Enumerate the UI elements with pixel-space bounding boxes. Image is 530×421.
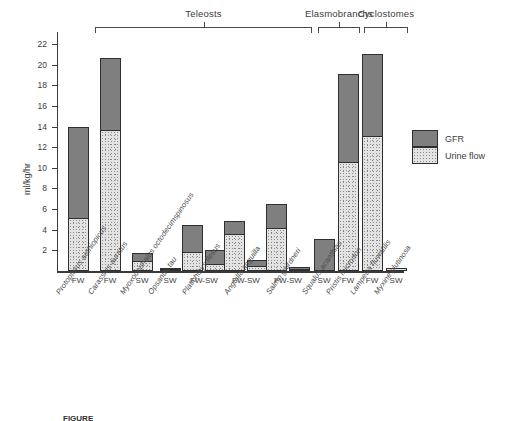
group-bracket-end-elasmobranchs xyxy=(318,27,319,33)
bar-segment-gfr xyxy=(224,221,245,235)
y-axis-line xyxy=(57,32,58,271)
y-axis-tick xyxy=(52,65,57,66)
bar xyxy=(289,267,310,271)
figure-caption-prefix: FIGURE xyxy=(63,414,93,421)
figure-caption: FIGURE xyxy=(63,414,93,421)
group-bracket-end-teleosts xyxy=(95,27,96,33)
bar-segment-urine-flow xyxy=(289,269,310,271)
y-axis-tick xyxy=(52,147,57,148)
group-bracket-line-elasmobranchs xyxy=(318,27,360,28)
group-bracket-end-cyclostomes xyxy=(407,27,408,33)
bar xyxy=(362,54,383,271)
y-axis-tick xyxy=(52,127,57,128)
group-bracket-end-cyclostomes xyxy=(364,27,365,33)
group-bracket-end-teleosts xyxy=(311,27,312,33)
y-axis-tick xyxy=(52,85,57,86)
y-axis-tick xyxy=(52,188,57,189)
y-axis-tick-label: 22 xyxy=(31,39,47,49)
y-axis-tick xyxy=(52,230,57,231)
legend-swatch-urine-flow xyxy=(412,147,438,164)
bar-segment-gfr xyxy=(338,74,359,163)
group-bracket-line-teleosts xyxy=(95,27,312,28)
legend-label-urine-flow: Urine flow xyxy=(445,151,485,161)
y-axis-tick-label: 2 xyxy=(31,245,47,255)
y-axis-tick-label: 4 xyxy=(31,225,47,235)
y-axis-tick-label: 8 xyxy=(31,183,47,193)
group-bracket-line-cyclostomes xyxy=(364,27,408,28)
group-bracket-end-elasmobranchs xyxy=(359,27,360,33)
y-axis-tick-label: 14 xyxy=(31,122,47,132)
y-axis-tick xyxy=(52,44,57,45)
figure-stacked-bar-chart: TeleostsElasmobranchsCyclostomes ml/kg/h… xyxy=(0,0,530,421)
group-label-cyclostomes: Cyclostomes xyxy=(358,8,415,19)
y-axis-tick-label: 10 xyxy=(31,163,47,173)
y-axis-tick-label: 16 xyxy=(31,101,47,111)
legend-label-gfr: GFR xyxy=(445,134,464,144)
group-bracket-pip-elasmobranchs xyxy=(339,22,340,27)
y-axis-tick-label: 18 xyxy=(31,80,47,90)
bar-segment-gfr xyxy=(68,127,89,220)
legend-swatch-gfr xyxy=(412,130,438,147)
group-bracket-pip-teleosts xyxy=(204,22,205,27)
y-axis-tick xyxy=(52,209,57,210)
group-label-teleosts: Teleosts xyxy=(185,8,221,19)
bar-segment-gfr xyxy=(266,204,287,229)
y-axis-tick-label: 20 xyxy=(31,60,47,70)
y-axis-tick-label: 12 xyxy=(31,142,47,152)
bar-segment-urine-flow xyxy=(247,266,268,271)
bar-segment-gfr xyxy=(182,225,203,253)
group-bracket-pip-cyclostomes xyxy=(386,22,387,27)
y-axis-tick xyxy=(52,106,57,107)
y-axis-tick xyxy=(52,168,57,169)
bar-segment-gfr xyxy=(362,54,383,137)
bar-segment-gfr xyxy=(100,58,121,130)
y-axis-tick xyxy=(52,250,57,251)
bar xyxy=(100,58,121,271)
y-axis-tick-label: 6 xyxy=(31,204,47,214)
